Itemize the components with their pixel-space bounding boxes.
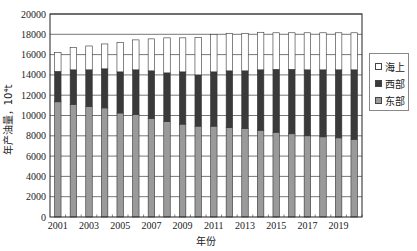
bar-segment (101, 44, 108, 69)
bar-segment (70, 70, 77, 105)
x-tick-label: 2001 (48, 220, 68, 231)
gridlines (50, 14, 362, 197)
y-tick-label: 0 (41, 212, 46, 223)
x-tick-label: 2003 (79, 220, 99, 231)
y-tick-label: 16000 (21, 49, 46, 60)
bar-segment (242, 71, 249, 129)
legend-item-west: 西部 (375, 75, 408, 92)
bar-segment (335, 70, 342, 138)
bar-segment (179, 124, 186, 217)
bar-segment (70, 104, 77, 217)
bar-segment (273, 33, 280, 70)
bar-segment (351, 70, 358, 140)
bars (55, 32, 362, 217)
bar-segment (195, 126, 202, 217)
x-tick-labels: 2001200320052007200920112013201520172019 (48, 220, 349, 231)
legend-item-offshore: 海上 (375, 58, 408, 75)
legend-swatch-west (375, 80, 382, 87)
bar-segment (257, 70, 264, 130)
bar-segment (117, 42, 124, 71)
bar-segment (289, 69, 296, 133)
bar-segment (335, 33, 342, 70)
bar-segment (211, 34, 218, 72)
bar-segment (164, 38, 171, 73)
bar-segment (86, 106, 93, 217)
bar-segment (304, 70, 311, 136)
bar-segment (117, 113, 124, 217)
bar-segment (211, 126, 218, 217)
y-tick-label: 8000 (26, 130, 46, 141)
y-tick-label: 20000 (21, 9, 46, 20)
bar-segment (242, 33, 249, 71)
bar-segment (195, 37, 202, 75)
bar-segment (133, 70, 140, 115)
bar-segment (304, 33, 311, 70)
x-tick-label: 2005 (110, 220, 130, 231)
y-tick-label: 6000 (26, 151, 46, 162)
bar-segment (242, 129, 249, 217)
bar-segment (148, 71, 155, 119)
bar-segment (70, 47, 77, 69)
bar-segment (195, 75, 202, 126)
bar-segment (335, 138, 342, 217)
y-tick-label: 10000 (21, 110, 46, 121)
x-tick-label: 2011 (204, 220, 224, 231)
y-tick-label: 4000 (26, 171, 46, 182)
bar-segment (351, 33, 358, 70)
bar-segment (226, 128, 233, 217)
x-tick-label: 2007 (141, 220, 161, 231)
bar-segment (148, 119, 155, 217)
bar-segment (273, 132, 280, 217)
bar-segment (226, 33, 233, 71)
bar-segment (55, 102, 62, 217)
y-tick-labels: 0200040006000800010000120001400016000180… (21, 9, 46, 223)
x-tick-label: 2009 (173, 220, 193, 231)
bar-segment (148, 39, 155, 71)
legend-label: 海上 (385, 59, 405, 74)
x-tick-label: 2017 (297, 220, 317, 231)
legend: 海上 西部 东部 (369, 53, 409, 111)
legend-label: 东部 (385, 93, 405, 108)
bar-segment (133, 40, 140, 70)
bar-segment (320, 137, 327, 217)
stacked-bar-chart: 0200040006000800010000120001400016000180… (0, 0, 417, 251)
bar-segment (86, 46, 93, 70)
bar-segment (101, 108, 108, 217)
bar-segment (179, 72, 186, 124)
legend-swatch-east (375, 97, 382, 104)
y-tick-label: 18000 (21, 29, 46, 40)
legend-item-east: 东部 (375, 92, 408, 109)
bar-segment (86, 70, 93, 107)
bar-segment (164, 73, 171, 122)
y-tick-label: 2000 (26, 191, 46, 202)
bar-segment (226, 71, 233, 128)
bar-segment (55, 53, 62, 72)
bar-segment (164, 122, 171, 217)
y-tick-label: 14000 (21, 69, 46, 80)
bar-segment (273, 69, 280, 132)
x-axis-label: 年份 (196, 235, 216, 247)
bar-segment (117, 72, 124, 113)
bar-segment (133, 114, 140, 217)
y-tick-label: 12000 (21, 90, 46, 101)
bar-segment (211, 72, 218, 126)
bar-segment (101, 69, 108, 108)
x-tick-label: 2013 (235, 220, 255, 231)
bar-segment (351, 139, 358, 217)
legend-swatch-offshore (375, 63, 382, 70)
legend-label: 西部 (385, 76, 405, 91)
x-tick-label: 2015 (266, 220, 286, 231)
bar-segment (257, 32, 264, 70)
bar-segment (179, 38, 186, 72)
bar-segment (289, 33, 296, 70)
y-axis-label: 年产油量，10⁴t (2, 85, 14, 156)
bar-segment (55, 71, 62, 101)
bar-segment (304, 136, 311, 217)
bar-segment (320, 33, 327, 70)
bar-segment (257, 130, 264, 217)
bar-segment (320, 70, 327, 137)
bar-segment (289, 134, 296, 217)
x-tick-label: 2019 (329, 220, 349, 231)
